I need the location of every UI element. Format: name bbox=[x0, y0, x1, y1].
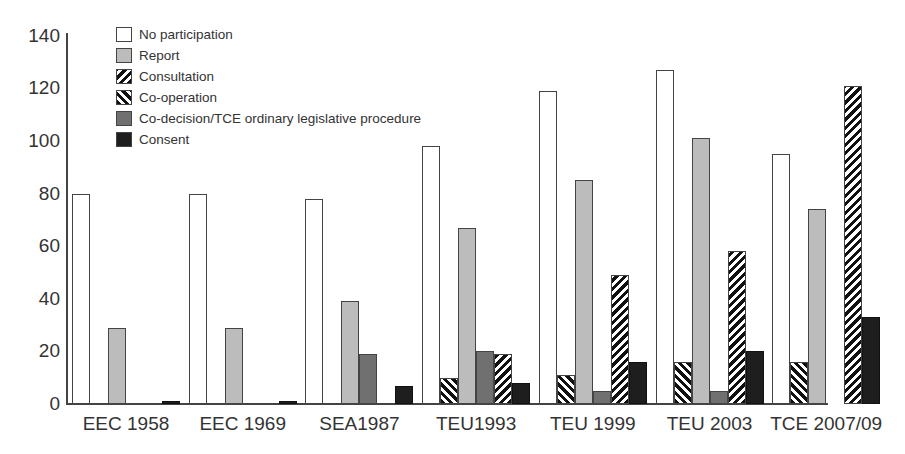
bar-consent bbox=[862, 317, 880, 404]
y-tick-label: 80 bbox=[10, 184, 60, 204]
legend-swatch-icon bbox=[116, 27, 132, 42]
bar-no-participation bbox=[72, 194, 90, 404]
y-tick-label: 0 bbox=[10, 394, 60, 414]
bar-report bbox=[225, 328, 243, 404]
x-tick-label: TEU1993 bbox=[412, 414, 540, 434]
bar-co-operation bbox=[440, 378, 458, 404]
bar-consent bbox=[395, 386, 413, 404]
bar-co-decision-tce-ordinary-legislative-procedure bbox=[476, 351, 494, 404]
bar-co-decision-tce-ordinary-legislative-procedure bbox=[710, 391, 728, 404]
legend-label: Report bbox=[139, 48, 180, 63]
y-tick-label: 100 bbox=[10, 131, 60, 151]
bar-no-participation bbox=[656, 70, 674, 404]
bar-co-operation bbox=[557, 375, 575, 404]
legend-swatch-icon bbox=[116, 132, 132, 147]
bar-co-operation bbox=[674, 362, 692, 404]
x-tick-label: TCE 2007/09 bbox=[762, 414, 890, 434]
legend-item-report: Report bbox=[116, 46, 180, 64]
legend-label: No participation bbox=[139, 27, 233, 42]
bar-report bbox=[692, 138, 710, 404]
x-tick-label: TEU 2003 bbox=[646, 414, 774, 434]
bar-report bbox=[108, 328, 126, 404]
bar-co-operation bbox=[790, 362, 808, 404]
bar-report bbox=[575, 180, 593, 404]
bar-consultation bbox=[494, 354, 512, 404]
bar-no-participation bbox=[772, 154, 790, 404]
legend-swatch-icon bbox=[116, 111, 132, 126]
bar-consent bbox=[629, 362, 647, 404]
bar-consent bbox=[746, 351, 764, 404]
bar-no-participation bbox=[422, 146, 440, 404]
bar-chart: 020406080100120140 EEC 1958EEC 1969SEA19… bbox=[0, 0, 905, 454]
bar-report bbox=[341, 301, 359, 404]
bar-no-participation bbox=[305, 199, 323, 404]
legend-label: Consultation bbox=[139, 69, 214, 84]
bar-consent bbox=[279, 401, 297, 404]
x-tick-label: SEA1987 bbox=[295, 414, 423, 434]
legend-swatch-icon bbox=[116, 90, 132, 105]
bar-co-decision-tce-ordinary-legislative-procedure bbox=[593, 391, 611, 404]
legend-label: Co-operation bbox=[139, 90, 217, 105]
legend-item-co-decision-tce-ordinary-legislative-procedure: Co-decision/TCE ordinary legislative pro… bbox=[116, 109, 421, 127]
y-tick-label: 140 bbox=[10, 26, 60, 46]
legend-item-co-operation: Co-operation bbox=[116, 88, 217, 106]
x-tick-label: EEC 1969 bbox=[179, 414, 307, 434]
legend-label: Co-decision/TCE ordinary legislative pro… bbox=[139, 111, 421, 126]
y-tick-label: 120 bbox=[10, 78, 60, 98]
legend-item-no-participation: No participation bbox=[116, 25, 233, 43]
y-tick-label: 60 bbox=[10, 236, 60, 256]
bar-consent bbox=[162, 401, 180, 404]
bar-consultation bbox=[611, 275, 629, 404]
bar-no-participation bbox=[539, 91, 557, 404]
bar-report bbox=[808, 209, 826, 404]
y-tick-label: 40 bbox=[10, 289, 60, 309]
x-tick-label: EEC 1958 bbox=[62, 414, 190, 434]
bar-co-decision-tce-ordinary-legislative-procedure bbox=[359, 354, 377, 404]
bar-consent bbox=[512, 383, 530, 404]
bar-no-participation bbox=[189, 194, 207, 404]
bar-consultation bbox=[728, 251, 746, 404]
legend-label: Consent bbox=[139, 132, 189, 147]
x-tick-label: TEU 1999 bbox=[529, 414, 657, 434]
bar-consultation bbox=[844, 86, 862, 404]
legend-swatch-icon bbox=[116, 48, 132, 63]
legend-item-consultation: Consultation bbox=[116, 67, 214, 85]
y-axis bbox=[66, 33, 68, 405]
legend-swatch-icon bbox=[116, 69, 132, 84]
y-tick-label: 20 bbox=[10, 341, 60, 361]
bar-report bbox=[458, 228, 476, 404]
legend-item-consent: Consent bbox=[116, 130, 189, 148]
